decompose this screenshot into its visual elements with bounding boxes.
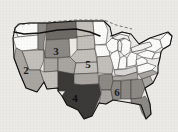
- state-florida: [131, 96, 151, 119]
- state-louisiana: [99, 90, 113, 104]
- state-arkansas: [99, 74, 113, 90]
- region-label-2: 2: [23, 64, 29, 76]
- us-region-map: 2 3 4 5 6: [0, 0, 178, 132]
- state-oklahoma: [74, 73, 99, 85]
- region-label-4: 4: [72, 92, 78, 104]
- state-new-england: [160, 33, 172, 49]
- state-alabama-region-6: [121, 80, 131, 99]
- map-screenshot: 2 3 4 5 6: [0, 0, 178, 132]
- state-ohio: [127, 52, 137, 67]
- region-label-3: 3: [53, 45, 59, 57]
- region-label-6: 6: [114, 86, 120, 98]
- state-minnesota: [93, 21, 108, 45]
- region-label-5: 5: [85, 58, 91, 70]
- state-south-dakota: [77, 35, 95, 50]
- state-new-mexico: [58, 71, 74, 91]
